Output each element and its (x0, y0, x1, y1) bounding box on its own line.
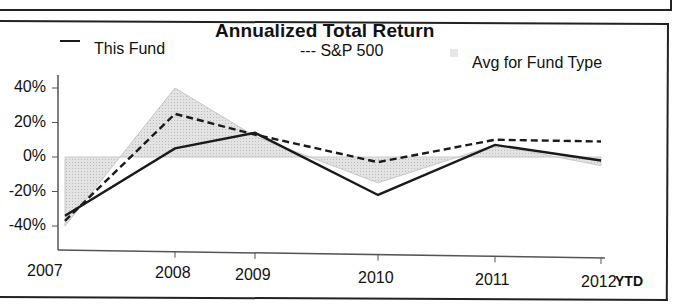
x-tick-label: 2012 (581, 273, 617, 291)
y-tick-label: 40% (0, 78, 46, 96)
ytd-label: YTD (615, 273, 643, 289)
avg-area (65, 88, 601, 226)
x-tick-label: 2008 (155, 264, 191, 282)
y-tick-label: 0% (0, 147, 46, 165)
x-tick-label: 2009 (235, 266, 271, 284)
y-tick-label: 20% (0, 113, 46, 131)
x-tick-label: 2011 (475, 271, 509, 289)
x-tick-label: 2007 (27, 262, 63, 280)
plot-area (0, 0, 673, 308)
y-tick-label: -40% (0, 216, 46, 234)
y-tick-label: -20% (0, 182, 46, 200)
x-tick-label: 2010 (358, 269, 394, 287)
avg-fund-type-area (65, 88, 601, 226)
